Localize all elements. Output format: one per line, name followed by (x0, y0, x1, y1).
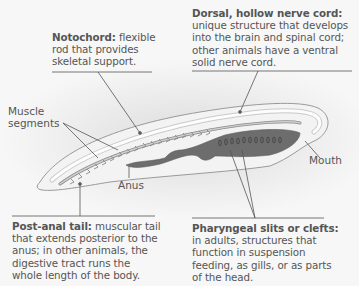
callout-notochord: Notochord: flexible rod that provides sk… (52, 31, 162, 68)
chordate-diagram: Notochord: flexible rod that provides sk… (0, 0, 359, 286)
label-muscle-segments: Muscle segments (8, 105, 68, 129)
callout-post-anal-tail: Post-anal tail: muscular tail that exten… (12, 220, 162, 281)
label-mouth: Mouth (309, 154, 342, 166)
pharyngeal-slits-description: in adults, structures that function in s… (192, 234, 332, 283)
callout-nerve-cord: Dorsal, hollow nerve cord: unique struct… (192, 7, 357, 68)
post-anal-tail-term: Post-anal tail: (12, 220, 92, 232)
nerve-cord-description: unique structure that develops into the … (192, 19, 348, 68)
callout-pharyngeal-slits: Pharyngeal slits or clefts: in adults, s… (192, 222, 342, 283)
pharyngeal-slits-term: Pharyngeal slits or clefts: (192, 222, 339, 234)
notochord-term: Notochord: (52, 31, 116, 43)
label-anus: Anus (118, 179, 144, 191)
nerve-cord-term: Dorsal, hollow nerve cord: (192, 7, 342, 19)
